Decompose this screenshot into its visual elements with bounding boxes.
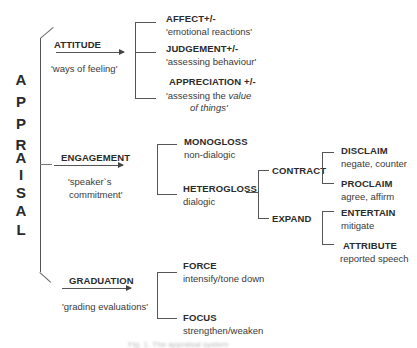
disclaim-gloss: negate, counter bbox=[341, 158, 407, 169]
engagement-gloss-line2: commitment' bbox=[69, 189, 123, 200]
proclaim-label: PROCLAIM bbox=[341, 178, 392, 189]
appreciation-gloss-pre: 'assessing the bbox=[166, 90, 229, 101]
appreciation-gloss-line2-italic: of things' bbox=[190, 102, 228, 113]
engagement-gloss-line1: 'speaker`s bbox=[68, 176, 112, 187]
attitude-gloss: 'ways of feeling' bbox=[51, 63, 117, 74]
engagement-tick-monogloss bbox=[157, 144, 177, 145]
entertain-tick bbox=[322, 211, 334, 212]
graduation-label: GRADUATION bbox=[69, 275, 134, 286]
force-label: FORCE bbox=[183, 260, 217, 271]
engagement-bracket bbox=[157, 144, 158, 195]
attitude-arrow bbox=[56, 52, 124, 53]
monogloss-gloss: non-dialogic bbox=[184, 149, 235, 160]
root-letter: I bbox=[13, 166, 29, 183]
contract-bracket bbox=[322, 152, 323, 184]
heterogloss-bracket bbox=[258, 170, 259, 219]
proclaim-tick bbox=[322, 183, 334, 184]
expand-tick bbox=[258, 218, 269, 219]
graduation-bracket bbox=[157, 272, 158, 319]
proclaim-gloss: agree, affirm bbox=[341, 191, 394, 202]
attitude-tick-judgement bbox=[135, 52, 156, 53]
attitude-tick-appreciation bbox=[135, 98, 156, 99]
monogloss-label: MONOGLOSS bbox=[184, 136, 248, 147]
engagement-tick-heterogloss bbox=[157, 194, 177, 195]
root-letter: P bbox=[13, 93, 29, 110]
entertain-gloss: mitigate bbox=[341, 220, 374, 231]
affect-gloss: 'emotional reactions' bbox=[166, 26, 252, 37]
entertain-label: ENTERTAIN bbox=[341, 207, 396, 218]
attitude-bracket bbox=[135, 22, 136, 98]
figure-caption: Fig. 1. The appraisal system bbox=[128, 340, 318, 348]
attitude-tick-affect bbox=[135, 22, 156, 23]
attribute-tick bbox=[322, 244, 334, 245]
disclaim-tick bbox=[322, 152, 334, 153]
appreciation-gloss: 'assessing the value bbox=[166, 90, 251, 101]
focus-label: FOCUS bbox=[183, 312, 217, 323]
heterogloss-gloss: dialogic bbox=[183, 196, 215, 207]
attribute-gloss: reported speech bbox=[340, 253, 409, 264]
root-letter: A bbox=[13, 202, 29, 219]
heterogloss-connector bbox=[246, 192, 258, 193]
force-gloss: intensify/tone down bbox=[183, 273, 264, 284]
focus-tick bbox=[157, 318, 177, 319]
affect-label: AFFECT+/- bbox=[166, 13, 216, 24]
graduation-gloss: 'grading evaluations' bbox=[62, 301, 148, 312]
appreciation-gloss-italic: value bbox=[229, 90, 252, 101]
graduation-arrow bbox=[62, 288, 131, 289]
appreciation-gloss-line2: of things' bbox=[190, 102, 228, 113]
judgement-label: JUDGEMENT+/- bbox=[166, 43, 238, 54]
root-letter: L bbox=[13, 221, 29, 238]
expand-label: EXPAND bbox=[272, 213, 312, 224]
expand-bracket bbox=[322, 211, 323, 245]
root-bracket-top-diagonal bbox=[40, 27, 54, 39]
focus-gloss: strengthen/weaken bbox=[183, 325, 263, 336]
judgement-gloss: 'assessing behaviour' bbox=[166, 56, 256, 67]
attribute-label: ATTRIBUTE bbox=[343, 240, 397, 251]
contract-label: CONTRACT bbox=[272, 165, 326, 176]
root-letter: S bbox=[13, 184, 29, 201]
root-bracket-line bbox=[40, 38, 41, 272]
root-letter: P bbox=[13, 115, 29, 132]
force-tick bbox=[157, 272, 177, 273]
disclaim-label: DISCLAIM bbox=[341, 145, 388, 156]
engagement-connector bbox=[40, 164, 52, 165]
appreciation-label: APPRECIATION +/- bbox=[169, 76, 256, 87]
root-letter: A bbox=[13, 71, 29, 88]
root-bracket-bottom-diagonal bbox=[39, 272, 51, 283]
attitude-label: ATTITUDE bbox=[54, 39, 101, 50]
contract-tick bbox=[258, 170, 269, 171]
root-letter: A bbox=[13, 149, 29, 166]
engagement-arrow bbox=[54, 165, 123, 166]
